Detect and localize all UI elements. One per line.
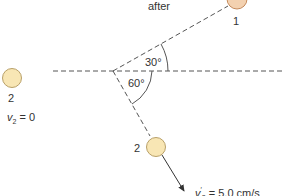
velocity-value: = 0 (16, 111, 35, 123)
ball-2-final (147, 138, 166, 157)
velocity-prime: ′ (201, 186, 202, 193)
ball2-initial-velocity: v2 = 0 (7, 111, 35, 128)
ball2-initial-label: 2 (8, 92, 14, 104)
collision-diagram (0, 0, 285, 196)
velocity-arrow (162, 155, 184, 191)
angle-label-30: 30° (145, 56, 162, 68)
ball-2-initial (3, 69, 22, 88)
ball1-label: 1 (233, 15, 239, 27)
ball2-final-velocity: v′2 = 5.0 cm/s (195, 184, 260, 196)
after-title: after (148, 0, 170, 12)
ball-1 (227, 0, 247, 9)
ball1-path-line (113, 6, 228, 71)
angle-arc-30 (161, 44, 168, 71)
angle-label-60: 60° (128, 77, 145, 89)
ball2-final-label: 2 (134, 142, 140, 154)
velocity-value: = 5.0 cm/s (206, 187, 260, 196)
